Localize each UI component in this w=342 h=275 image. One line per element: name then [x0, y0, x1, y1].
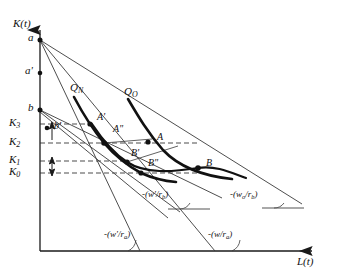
label-QN-sub: N	[78, 86, 83, 95]
axis-lines	[40, 30, 312, 251]
angle-arc-w-prime-ra	[128, 240, 136, 251]
figure-canvas: K(t) L(t) a a' b b' K3 K2 K1 K0 QN QO A'…	[0, 0, 342, 275]
angle-arc-w-ra	[232, 240, 240, 251]
label-K3: K3	[9, 117, 20, 130]
label-slope-w-ra: -(w/ra)	[208, 230, 232, 240]
label-isoquant-QN: QN	[70, 82, 83, 95]
slope-w-ra-text: -(w/r	[208, 229, 226, 239]
slope-w-prime-rb-text: -(w'/r	[142, 189, 162, 199]
label-slope-w-prime-ra: -(w'/ra)	[104, 230, 130, 240]
label-a-prime: a'	[25, 65, 33, 76]
label-K0-sub: 0	[16, 170, 20, 179]
k1-k0-arrow-head-down	[49, 169, 54, 176]
y-axis-label: K(t)	[13, 18, 31, 29]
label-a: a	[28, 32, 34, 43]
label-K3-sub: 3	[16, 121, 20, 130]
label-A-prime: A'	[97, 112, 105, 122]
dot-A-prime	[87, 121, 92, 126]
slope-wo-rb-text: -(w	[230, 189, 242, 199]
dot-b-prime	[45, 126, 50, 131]
label-b-prime: b'	[54, 121, 61, 131]
label-K0: K0	[9, 166, 20, 179]
slope-wo-rb-tail: )	[254, 189, 257, 199]
slope-w-prime-rb-tail: )	[165, 189, 168, 199]
angle-baselines	[168, 208, 304, 209]
slope-w-prime-ra-text: -(w'/r	[104, 229, 124, 239]
dot-B	[195, 165, 201, 171]
dot-A	[145, 139, 150, 144]
dot-B-double-prime	[138, 170, 143, 175]
label-QO-sub: O	[132, 90, 138, 99]
segment-addprime-to-A	[104, 139, 152, 143]
angle-arc-w-prime-rb	[180, 203, 190, 209]
label-QN-base: Q	[70, 81, 78, 93]
label-B-prime: B'	[131, 148, 139, 158]
label-A-double-prime: A"	[113, 124, 123, 134]
label-b: b	[28, 102, 34, 113]
slope-w-ra-tail: )	[229, 229, 232, 239]
dot-b	[38, 108, 43, 113]
k1-k0-arrow-head-up	[49, 157, 54, 164]
label-QO-base: Q	[124, 85, 132, 97]
label-A: A	[157, 132, 163, 142]
axis-dots	[38, 38, 50, 131]
slope-w-prime-ra-tail: )	[127, 229, 130, 239]
label-isoquant-QO: QO	[124, 86, 138, 99]
dot-A-double-prime	[101, 140, 107, 146]
slope-angle-arcs	[128, 203, 284, 251]
angle-arc-wo-rb	[274, 203, 284, 208]
diagram-svg	[0, 0, 342, 275]
dot-B-prime	[124, 159, 129, 164]
isocost-a-medium	[40, 40, 215, 251]
label-slope-w-prime-rb: -(w'/rb)	[142, 190, 168, 200]
label-B: B	[206, 158, 212, 168]
isocost-lines-from-a	[40, 40, 302, 251]
label-K2: K2	[9, 136, 20, 149]
label-K2-sub: 2	[16, 140, 20, 149]
dot-a	[38, 38, 43, 43]
label-B-double-prime: B"	[148, 158, 158, 168]
label-slope-wo-rb: -(wo/rb)	[230, 190, 257, 200]
x-axis-label: L(t)	[297, 256, 314, 267]
isoquant-curve-QO	[128, 99, 232, 179]
dot-a-prime	[38, 71, 43, 76]
